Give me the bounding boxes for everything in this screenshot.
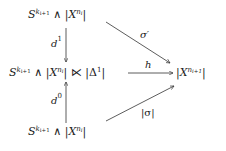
node-top: Ski+1 ∧ |Xni|: [28, 9, 86, 21]
label-d0: d0: [51, 95, 62, 106]
label-sigma-prime: σ′: [140, 29, 149, 40]
node-bottom: Ski+1 ∧ |Xni|: [28, 126, 86, 138]
node-middle: Ski+1 ∧ |Xni| ⋉ |Δ1|: [9, 67, 105, 79]
label-abs-sigma: |σ|: [141, 107, 155, 118]
arrow-abs-sigma: [106, 86, 174, 121]
label-d1: d1: [51, 38, 62, 49]
arrow-sigma-prime: [106, 22, 170, 63]
label-h: h: [145, 59, 151, 70]
node-right: |Xni+1|: [176, 67, 206, 79]
